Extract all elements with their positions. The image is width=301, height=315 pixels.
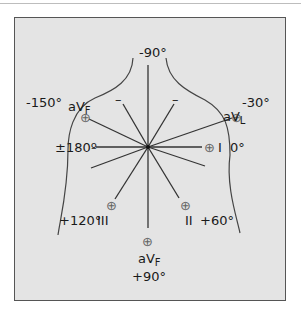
positive-marker-avf: ⊕ <box>142 235 153 248</box>
angle-label-0: 0° <box>230 141 245 154</box>
body-outline-right <box>166 58 240 233</box>
angle-label-plus-90: +90° <box>132 270 166 283</box>
negative-marker-right: – <box>172 93 179 106</box>
lead-label-i: I <box>218 141 222 154</box>
angle-label-plus-60: +60° <box>200 214 234 227</box>
angle-label-minus-30: -30° <box>242 96 270 109</box>
lead-label-ii: II <box>185 214 193 227</box>
angle-label-plus-120: +120° <box>59 214 101 227</box>
lead-label-upper-left: aVF <box>68 100 91 116</box>
positive-marker-i: ⊕ <box>204 141 215 154</box>
negative-marker-left: – <box>115 93 122 106</box>
angle-label-minus-90: -90° <box>139 46 167 59</box>
positive-marker-iii: ⊕ <box>106 199 117 212</box>
lead-label-avf: aVF <box>138 252 161 268</box>
positive-marker-ii: ⊕ <box>180 199 191 212</box>
angle-label-180: ±180º <box>55 141 97 154</box>
lead-label-avl: aVL <box>223 110 245 126</box>
angle-label-minus-150: -150° <box>26 96 62 109</box>
lead-label-iii: III <box>97 214 109 227</box>
